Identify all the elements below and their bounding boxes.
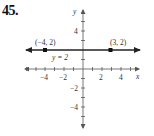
point-label-3-2: (3, 2) bbox=[110, 38, 127, 47]
x-tick-label-2: 2 bbox=[99, 73, 103, 82]
y-axis-label: y bbox=[72, 7, 77, 16]
y-tick-label-neg4: −4 bbox=[70, 103, 78, 112]
x-axis-label: x bbox=[135, 72, 140, 81]
point-neg4-2 bbox=[43, 48, 47, 52]
x-tick-label-neg2: −2 bbox=[59, 73, 67, 82]
coordinate-plane: y x −4 −2 2 4 4 −2 −4 (−4, 2) (3, 2) y =… bbox=[0, 0, 154, 136]
line-equation-label: y = 2 bbox=[51, 53, 68, 62]
x-axis bbox=[25, 67, 139, 71]
y-tick-label-4: 4 bbox=[74, 27, 78, 36]
point-3-2 bbox=[109, 48, 113, 52]
y-tick-label-neg2: −2 bbox=[70, 84, 78, 93]
x-tick-label-neg4: −4 bbox=[40, 73, 48, 82]
x-tick-label-4: 4 bbox=[119, 73, 123, 82]
point-label-neg4-2: (−4, 2) bbox=[35, 38, 56, 47]
